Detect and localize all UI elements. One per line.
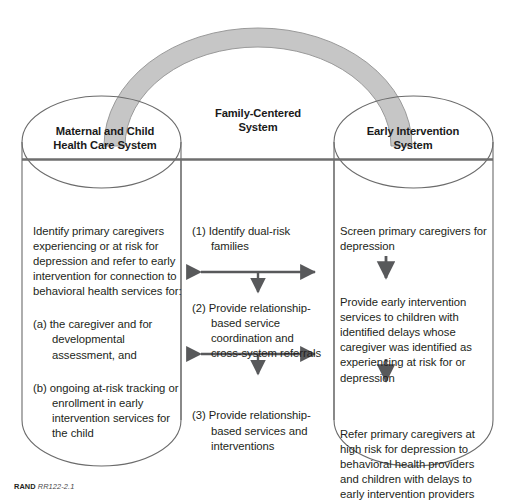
list-text: Provide relationship-based services and … (209, 409, 311, 451)
column-early-intervention-system: Screen primary caregivers for depression… (340, 224, 494, 501)
spacer (33, 374, 185, 381)
figure-source-credit: RANDRR122-2.1 (14, 482, 74, 491)
arrow-slot (340, 397, 494, 427)
list-item: (1) Identify dual-risk families (192, 224, 324, 254)
header-line-2: System (330, 138, 496, 152)
list-text: the caregiver and for developmental asse… (50, 318, 153, 360)
header-line-1: Early Intervention (330, 124, 496, 138)
header-maternal-child-health: Maternal and Child Health Care System (22, 124, 188, 153)
list-item: (2) Provide relationship-based service c… (192, 301, 324, 361)
report-number: RR122-2.1 (38, 482, 75, 491)
header-line-2: Health Care System (22, 138, 188, 152)
list-item: (b) ongoing at-risk tracking or enrollme… (33, 381, 185, 441)
column-paragraph: Screen primary caregivers for depression (340, 224, 494, 254)
spacer (33, 310, 185, 317)
list-marker: (1) (192, 225, 206, 237)
list-text: Identify dual-risk families (209, 225, 290, 252)
list-item: (3) Provide relationship-based services … (192, 408, 324, 453)
rand-logo-text: RAND (14, 482, 36, 491)
column-paragraph: Provide early intervention services to c… (340, 295, 494, 385)
arrow-slot (192, 372, 324, 408)
column-maternal-child-health: Identify primary caregivers experiencing… (33, 224, 185, 441)
list-text: Provide relationship-based service coord… (209, 302, 321, 359)
arrow-slot (192, 265, 324, 301)
figure-container: Maternal and Child Health Care System Fa… (0, 0, 516, 501)
list-marker: (3) (192, 409, 206, 421)
header-line-1: Family-Centered (178, 106, 338, 120)
header-family-centered-system: Family-Centered System (178, 106, 338, 135)
column-paragraph: Refer primary caregivers at high risk fo… (340, 427, 494, 501)
list-item: (a) the caregiver and for developmental … (33, 317, 185, 362)
list-marker: (a) (33, 318, 47, 330)
list-marker: (2) (192, 302, 206, 314)
list-text: ongoing at-risk tracking or enrollment i… (50, 382, 179, 439)
arrow-slot (340, 265, 494, 295)
header-early-intervention-system: Early Intervention System (330, 124, 496, 153)
column-family-centered-system: (1) Identify dual-risk families (2) Prov… (192, 224, 324, 454)
column-paragraph: Identify primary caregivers experiencing… (33, 224, 185, 299)
header-line-2: System (178, 120, 338, 134)
header-line-1: Maternal and Child (22, 124, 188, 138)
list-marker: (b) (33, 382, 47, 394)
